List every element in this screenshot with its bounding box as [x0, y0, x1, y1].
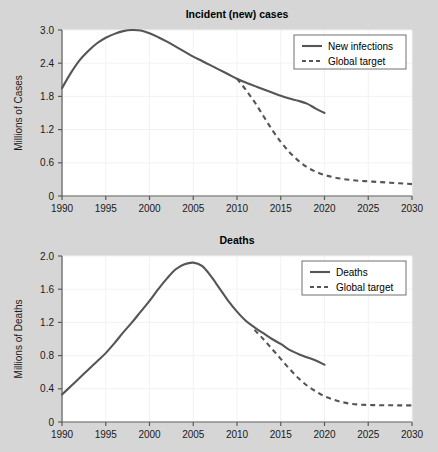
y-tick-label: 2.4 [40, 58, 54, 69]
chart-body-incident: 00.61.21.82.43.0199019952000200520102015… [13, 8, 424, 214]
x-tick-label: 2010 [226, 203, 249, 214]
x-tick-label: 1995 [95, 429, 118, 440]
incident-cases-chart: 00.61.21.82.43.0199019952000200520102015… [0, 0, 438, 226]
x-tick-label: 2025 [357, 203, 380, 214]
y-tick-label: 1.2 [40, 124, 54, 135]
x-tick-label: 2005 [182, 203, 205, 214]
chart-title: Incident (new) cases [186, 8, 289, 20]
chart-body-deaths: 00.40.81.21.62.0199019952000200520102015… [13, 234, 424, 440]
y-tick-label: 0.4 [40, 383, 54, 394]
legend-label: Deaths [336, 267, 368, 278]
x-tick-label: 1990 [51, 429, 74, 440]
y-tick-label: 1.8 [40, 91, 54, 102]
x-tick-label: 1990 [51, 203, 74, 214]
y-tick-label: 2.0 [40, 251, 54, 262]
x-tick-label: 2025 [357, 429, 380, 440]
x-tick-label: 2000 [138, 203, 161, 214]
x-tick-label: 2030 [401, 429, 424, 440]
chart-panel-incident: 00.61.21.82.43.0199019952000200520102015… [0, 0, 438, 226]
x-tick-label: 2020 [313, 203, 336, 214]
x-tick-label: 2010 [226, 429, 249, 440]
y-tick-label: 0 [48, 417, 54, 428]
y-tick-label: 3.0 [40, 25, 54, 36]
y-tick-label: 1.6 [40, 284, 54, 295]
legend-label: New infections [328, 41, 393, 52]
chart-title: Deaths [219, 234, 254, 246]
chart-panel-deaths: 00.40.81.21.62.0199019952000200520102015… [0, 226, 438, 452]
x-tick-label: 2005 [182, 429, 205, 440]
x-tick-label: 2000 [138, 429, 161, 440]
y-tick-label: 0 [48, 191, 54, 202]
legend-label: Global target [328, 56, 385, 67]
y-tick-label: 0.6 [40, 157, 54, 168]
y-tick-label: 1.2 [40, 317, 54, 328]
x-tick-label: 2015 [270, 429, 293, 440]
deaths-chart: 00.40.81.21.62.0199019952000200520102015… [0, 226, 438, 452]
x-tick-label: 1995 [95, 203, 118, 214]
x-tick-label: 2015 [270, 203, 293, 214]
legend-label: Global target [336, 282, 393, 293]
x-tick-label: 2030 [401, 203, 424, 214]
figure-container: 00.61.21.82.43.0199019952000200520102015… [0, 0, 438, 452]
y-axis-title: Millions of Deaths [13, 300, 24, 379]
y-tick-label: 0.8 [40, 350, 54, 361]
y-axis-title: Millions of Cases [13, 75, 24, 151]
x-tick-label: 2020 [313, 429, 336, 440]
